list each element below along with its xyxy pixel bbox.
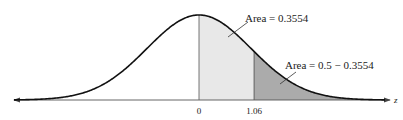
tick-label-1-06: 1.06 bbox=[246, 106, 262, 116]
tail-area-label: Area = 0.5 − 0.3554 bbox=[285, 59, 374, 71]
z-axis-label: z bbox=[393, 95, 398, 105]
normal-curve-diagram: Area = 0.3554 Area = 0.5 − 0.3554 0 1.06… bbox=[0, 0, 403, 120]
center-area-region bbox=[199, 15, 254, 100]
tick-label-0: 0 bbox=[197, 106, 202, 116]
center-area-label: Area = 0.3554 bbox=[245, 12, 309, 24]
